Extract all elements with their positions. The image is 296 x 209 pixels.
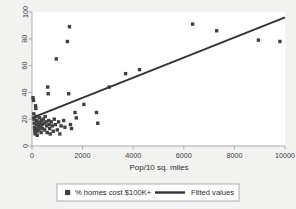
data-point <box>46 85 49 88</box>
data-point <box>96 122 99 125</box>
data-point <box>52 130 55 133</box>
data-point <box>69 123 72 126</box>
data-point <box>257 38 260 41</box>
x-axis-title: Pop/10 sq. miles <box>129 163 188 172</box>
data-point <box>58 132 61 135</box>
data-point <box>67 92 70 95</box>
x-axis-ticks: 0200040006000800010000 <box>30 146 295 160</box>
x-tick-label: 6000 <box>176 151 192 160</box>
data-point <box>32 99 35 102</box>
data-point <box>39 131 42 134</box>
y-axis-ticks: 020406080100 <box>21 6 33 148</box>
y-tick-label: 40 <box>21 88 30 96</box>
data-point <box>66 40 69 43</box>
data-point <box>53 118 56 121</box>
data-point <box>95 111 98 114</box>
data-point <box>138 68 141 71</box>
data-point <box>62 119 65 122</box>
data-point <box>55 57 58 60</box>
data-point <box>49 132 52 135</box>
data-point <box>54 123 57 126</box>
y-tick-label: 0 <box>21 144 30 148</box>
data-point <box>191 22 194 25</box>
y-tick-label: 100 <box>21 6 30 18</box>
data-point <box>57 120 60 123</box>
data-point <box>75 116 78 119</box>
data-point <box>59 124 62 127</box>
x-tick-label: 8000 <box>226 151 242 160</box>
data-point <box>73 111 76 114</box>
legend-marker-icon <box>65 190 70 195</box>
data-point <box>215 29 218 32</box>
data-point <box>82 103 85 106</box>
data-point <box>278 40 281 43</box>
x-tick-label: 4000 <box>125 151 141 160</box>
scatter-plot: 0200040006000800010000 020406080100 Pop/… <box>0 0 296 209</box>
chart-legend: % homes cost $100K+Fitted values <box>57 184 239 201</box>
data-point <box>124 72 127 75</box>
y-tick-label: 80 <box>21 35 30 43</box>
chart-figure: 0200040006000800010000 020406080100 Pop/… <box>0 0 296 209</box>
x-tick-label: 0 <box>30 151 34 160</box>
x-tick-label: 10000 <box>275 151 295 160</box>
data-point <box>70 127 73 130</box>
legend-label-fitted: Fitted values <box>191 188 234 197</box>
data-point <box>68 25 71 28</box>
data-point <box>36 134 39 137</box>
data-point <box>45 131 48 134</box>
data-point <box>43 115 46 118</box>
data-point <box>46 92 49 95</box>
data-point <box>63 126 66 129</box>
y-tick-label: 20 <box>21 115 30 123</box>
data-point <box>50 120 53 123</box>
data-point <box>56 128 59 131</box>
legend-label-homes: % homes cost $100K+ <box>75 188 152 197</box>
y-tick-label: 60 <box>21 62 30 70</box>
x-tick-label: 2000 <box>75 151 91 160</box>
data-point <box>34 107 37 110</box>
data-point <box>51 124 54 127</box>
